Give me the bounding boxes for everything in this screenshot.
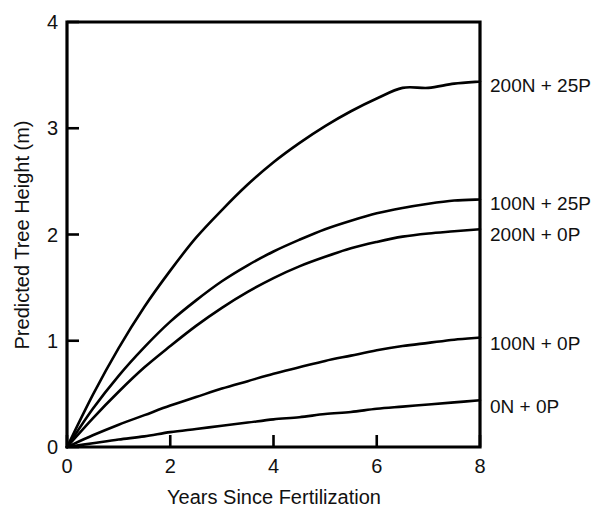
series-label-200n-0p: 200N + 0P [490,225,580,244]
y-axis-ticks [67,22,79,447]
x-tick-label-2: 2 [165,456,176,476]
series-label-100n-0p: 100N + 0P [490,334,580,353]
x-axis-ticks [67,435,480,447]
curve-200n-25p [67,82,480,448]
series-curves [67,82,480,448]
figure-container: 0 1 2 3 4 0 2 4 6 8 Years Since Fertiliz… [0,0,611,521]
x-tick-label-4: 4 [268,456,279,476]
series-label-200n-25p: 200N + 25P [490,76,591,95]
y-tick-label-2: 2 [47,225,58,245]
y-tick-label-0: 0 [47,437,58,457]
series-label-100n-25p: 100N + 25P [490,194,591,213]
x-tick-label-0: 0 [61,456,72,476]
curve-100n-0p [67,338,480,447]
x-tick-label-8: 8 [474,456,485,476]
y-tick-label-4: 4 [47,12,58,32]
x-tick-label-6: 6 [371,456,382,476]
y-axis-title: Predicted Tree Height (m) [12,121,32,350]
y-tick-label-3: 3 [47,118,58,138]
series-label-0n-0p: 0N + 0P [490,397,559,416]
curve-100n-25p [67,199,480,447]
y-tick-label-1: 1 [47,331,58,351]
x-axis-title: Years Since Fertilization [167,487,381,507]
curve-200n-0p [67,229,480,447]
